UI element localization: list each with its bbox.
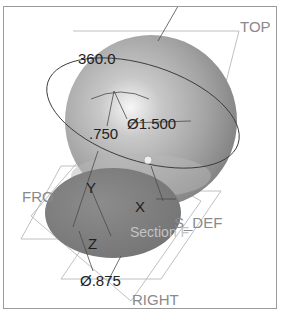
model-graphics[interactable] <box>3 6 277 309</box>
axis-label-z: Z <box>88 236 97 251</box>
axis-label-y: Y <box>86 180 96 195</box>
axis-label-x: X <box>135 199 145 214</box>
dimension-offset[interactable]: .750 <box>89 126 118 141</box>
section-label: Section F <box>130 225 189 239</box>
datum-label-right[interactable]: RIGHT <box>132 292 179 307</box>
model-viewport[interactable]: TOP 360.0 .750 Ø1.500 FRO Y X S_DEF Sect… <box>3 6 277 309</box>
vertex-point[interactable] <box>144 156 152 164</box>
dimension-cut-diameter[interactable]: Ø.875 <box>80 273 121 288</box>
dimension-sphere-diameter[interactable]: Ø1.500 <box>127 116 176 131</box>
dimension-angle[interactable]: 360.0 <box>78 51 116 66</box>
datum-label-front[interactable]: FRO <box>22 189 54 204</box>
datum-label-top[interactable]: TOP <box>240 19 271 34</box>
cut-face[interactable] <box>45 168 181 258</box>
